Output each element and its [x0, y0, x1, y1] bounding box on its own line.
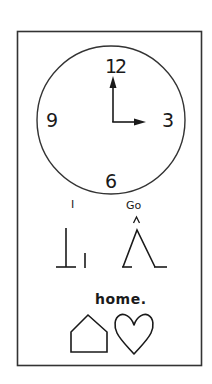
clock-numeral-6: 6 [105, 172, 117, 191]
i-symbol-icon [56, 228, 85, 268]
house-icon [71, 315, 107, 352]
go-symbol-icon [122, 230, 167, 267]
minute-hand [110, 76, 117, 122]
clock-numeral-3: 3 [162, 111, 174, 130]
clock-numeral-12: 12 [105, 57, 125, 76]
symbol-card: 12 3 6 9 I Go home. [0, 0, 212, 384]
heart-icon [115, 314, 153, 354]
clock-numeral-9: 9 [46, 111, 58, 130]
word-label-i: I [71, 199, 74, 210]
hour-hand [112, 119, 146, 126]
word-label-go: Go [126, 200, 141, 211]
go-small-caret-icon [134, 217, 140, 223]
word-label-home: home. [95, 292, 147, 306]
